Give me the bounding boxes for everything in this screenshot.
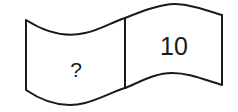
wavy-banner <box>0 0 238 112</box>
unknown-value-label: ? <box>56 58 96 82</box>
value-label: 10 <box>148 32 200 61</box>
